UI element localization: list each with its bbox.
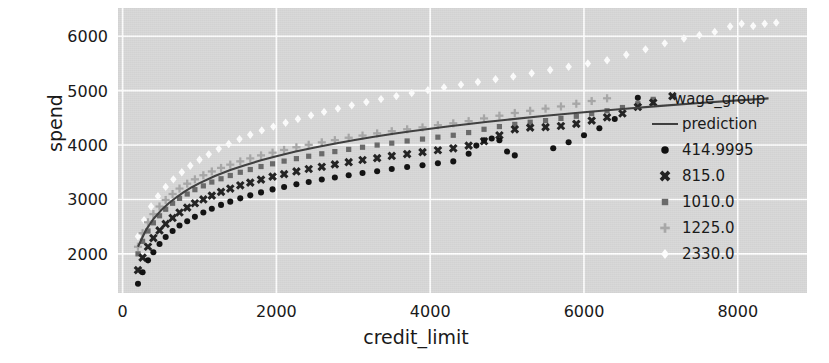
legend-item-prediction[interactable]: prediction: [648, 111, 800, 137]
legend-label: 2330.0: [682, 245, 735, 263]
data-point: [512, 152, 518, 158]
data-point: [374, 168, 380, 174]
data-point: [360, 145, 365, 150]
data-point: [404, 164, 410, 170]
legend-label: prediction: [682, 115, 757, 133]
data-point: [346, 172, 352, 178]
data-point: [481, 137, 487, 143]
y-tick-label: 2000: [42, 244, 108, 263]
data-point: [581, 132, 587, 138]
data-point: [435, 135, 440, 140]
figure: 02000400060008000 20003000400050006000 s…: [0, 0, 829, 363]
data-point: [389, 166, 395, 172]
data-point: [504, 149, 510, 155]
data-point: [661, 172, 669, 180]
data-point: [612, 116, 618, 122]
line-marker-icon: [648, 115, 682, 133]
x-tick-label: 6000: [564, 302, 605, 321]
data-point: [574, 114, 579, 119]
data-point: [227, 199, 233, 205]
y-axis-label: spend: [44, 63, 66, 183]
data-point: [481, 127, 486, 132]
data-point: [558, 116, 563, 121]
data-point: [451, 133, 456, 138]
data-point: [270, 186, 276, 192]
data-point: [201, 183, 206, 188]
data-point: [306, 179, 312, 185]
data-point: [209, 206, 215, 212]
data-point: [346, 147, 351, 152]
data-point: [281, 184, 287, 190]
data-point: [466, 130, 471, 135]
data-point: [293, 181, 299, 187]
data-point: [145, 257, 151, 263]
data-point: [209, 179, 214, 184]
data-point: [228, 173, 233, 178]
data-point: [473, 143, 479, 149]
data-point: [270, 161, 275, 166]
data-point: [192, 214, 198, 220]
legend-title: wage_group: [674, 90, 800, 108]
data-point: [332, 149, 337, 154]
data-point: [543, 118, 548, 123]
x-tick-label: 4000: [410, 302, 451, 321]
data-point: [661, 249, 669, 259]
legend-label: 414.9995: [682, 141, 754, 159]
y-tick-label: 6000: [42, 27, 108, 46]
legend-label: 1010.0: [682, 193, 735, 211]
data-point: [157, 241, 163, 247]
legend-item-815-0[interactable]: 815.0: [648, 163, 800, 189]
square-marker-icon: [648, 193, 682, 211]
plus-marker-icon: [648, 219, 682, 237]
data-point: [248, 167, 253, 172]
data-point: [550, 145, 556, 151]
data-point: [596, 125, 602, 131]
x-marker-icon: [648, 167, 682, 185]
legend-item-2330-0[interactable]: 2330.0: [648, 241, 800, 267]
legend-item-1010-0[interactable]: 1010.0: [648, 189, 800, 215]
data-point: [237, 195, 243, 201]
data-point: [200, 209, 206, 215]
data-point: [661, 146, 668, 153]
legend-item-1225-0[interactable]: 1225.0: [648, 215, 800, 241]
data-point: [450, 158, 456, 164]
data-point: [319, 177, 325, 183]
data-point: [163, 234, 169, 240]
data-point: [218, 176, 223, 181]
data-point: [332, 174, 338, 180]
data-point: [662, 199, 668, 205]
data-point: [218, 202, 224, 208]
diamond-marker-icon: [648, 245, 682, 263]
data-point: [405, 138, 410, 143]
x-axis-label: credit_limit: [256, 326, 576, 348]
data-point: [496, 137, 502, 143]
data-point: [150, 249, 156, 255]
y-tick-label: 3000: [42, 190, 108, 209]
x-tick-label: 0: [118, 302, 128, 321]
data-point: [419, 162, 425, 168]
data-point: [375, 142, 380, 147]
data-point: [176, 223, 182, 229]
legend-item-414-9995[interactable]: 414.9995: [648, 137, 800, 163]
data-point: [389, 141, 394, 146]
x-tick-label: 8000: [717, 302, 758, 321]
x-tick-label: 2000: [256, 302, 297, 321]
data-point: [319, 151, 324, 156]
data-point: [497, 124, 502, 129]
data-point: [192, 187, 197, 192]
data-point: [660, 223, 670, 233]
circle-marker-icon: [648, 141, 682, 159]
legend-entries: prediction414.9995815.01010.01225.02330.…: [648, 111, 800, 267]
legend: wage_group prediction414.9995815.01010.0…: [648, 90, 800, 267]
data-point: [360, 170, 366, 176]
data-point: [238, 170, 243, 175]
data-point: [140, 269, 146, 275]
data-point: [281, 159, 286, 164]
legend-label: 815.0: [682, 167, 725, 185]
data-point: [420, 136, 425, 141]
data-point: [466, 151, 472, 157]
data-point: [258, 189, 264, 195]
data-point: [135, 281, 141, 287]
data-point: [566, 139, 572, 145]
data-point: [184, 218, 190, 224]
